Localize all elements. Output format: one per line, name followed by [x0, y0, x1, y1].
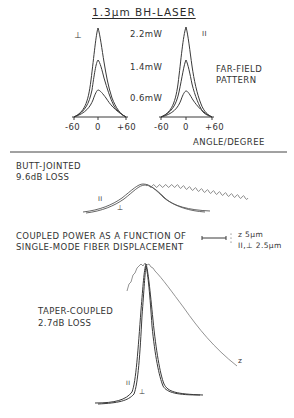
far-field-left-curves — [72, 28, 128, 120]
far-field-right-curves — [159, 27, 214, 120]
butt-jointed-curves — [83, 184, 248, 213]
figure-graphics — [0, 0, 294, 418]
taper-coupled-curves — [95, 263, 237, 404]
scale-bar — [202, 233, 232, 242]
